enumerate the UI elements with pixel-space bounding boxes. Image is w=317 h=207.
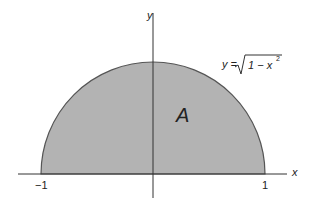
region-label: A	[176, 104, 189, 127]
curve-label-exponent: 2	[276, 55, 280, 62]
curve-label-lhs: y =	[222, 58, 237, 70]
tick-minus-one: −1	[35, 179, 48, 191]
semicircle-diagram	[0, 0, 317, 207]
tick-one: 1	[262, 179, 268, 191]
curve-label-radicand: 1 − x	[248, 59, 272, 71]
x-axis-label: x	[292, 166, 298, 178]
y-axis-label: y	[147, 9, 153, 21]
